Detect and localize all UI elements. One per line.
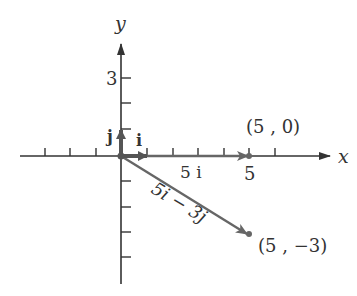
- y-axis-label: y: [114, 12, 126, 34]
- unit-i-label: i: [136, 131, 142, 150]
- vector-diagram: y x 3 5 i j 5 i 5i − 3j (5 , 0) (5 , −3): [0, 0, 357, 296]
- point-5-0: [246, 153, 252, 159]
- y-tick-label-3: 3: [106, 68, 117, 89]
- y-ticks: [121, 78, 131, 257]
- point-5-neg3: [246, 231, 252, 237]
- unit-j-label: j: [105, 127, 113, 146]
- x-axis-label: x: [338, 145, 349, 167]
- point-5-neg3-label: (5 , −3): [258, 235, 327, 256]
- vector-5i-label: 5 i: [180, 162, 202, 182]
- point-5-0-label: (5 , 0): [246, 116, 300, 137]
- x-tick-label-5: 5: [244, 163, 255, 184]
- origin-dot: [118, 153, 125, 160]
- vector-5i-3j-label: 5i − 3j: [148, 177, 211, 227]
